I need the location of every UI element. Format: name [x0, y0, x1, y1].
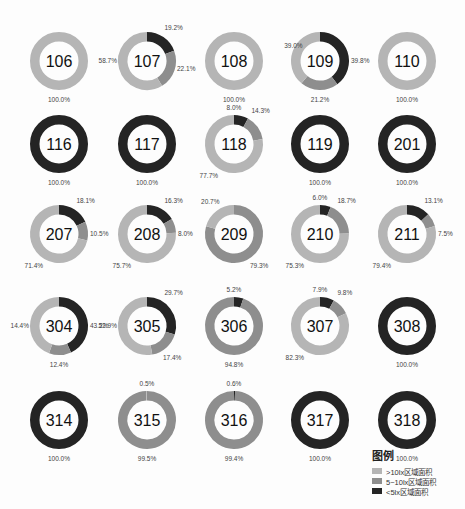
percent-label: 18.7%: [337, 197, 356, 204]
percent-label: 58.7%: [99, 57, 118, 64]
room-number: 305: [134, 318, 161, 335]
room-number: 117: [134, 136, 160, 153]
percent-label: 75.7%: [113, 262, 132, 269]
room-number: 307: [307, 318, 334, 335]
room-number: 118: [221, 136, 247, 153]
percent-label: 22.1%: [177, 65, 196, 72]
percent-label: 99.4%: [225, 455, 244, 462]
room-number: 210: [307, 226, 334, 243]
percent-label: 10.5%: [90, 230, 109, 237]
legend-item-medium: 5~10lx区域面积: [372, 476, 436, 486]
percent-label: 100.0%: [136, 179, 158, 186]
percent-label: 100.0%: [309, 455, 331, 462]
percent-label: 100.0%: [48, 179, 70, 186]
room-number: 318: [394, 412, 421, 429]
percent-label: 100.0%: [396, 179, 418, 186]
percent-label: 29.7%: [164, 289, 183, 296]
room-number: 106: [46, 53, 73, 70]
percent-label: 79.3%: [250, 262, 269, 269]
donut-118: 1188.0%14.3%77.7%: [200, 104, 270, 179]
donut-207: 20718.1%10.5%71.4%: [25, 197, 109, 269]
percent-label: 100.0%: [223, 96, 245, 103]
percent-label: 77.7%: [200, 172, 219, 179]
donut-116: 116100.0%: [35, 120, 84, 186]
room-number: 207: [46, 226, 73, 243]
legend-item-light: >10lx区域面积: [372, 466, 436, 476]
percent-label: 8.0%: [178, 230, 193, 237]
legend-title: 图例: [372, 447, 436, 463]
donut-210: 2106.0%18.7%75.3%: [286, 194, 356, 269]
percent-label: 100.0%: [48, 96, 70, 103]
donut-108: 108100.0%: [210, 37, 259, 103]
room-number: 110: [394, 53, 420, 70]
donut-107: 10719.2%22.1%58.7%: [99, 24, 196, 85]
percent-label: 14.4%: [11, 322, 30, 329]
donut-314: 314100.0%: [35, 396, 84, 462]
room-number: 304: [46, 318, 73, 335]
donut-307: 3077.9%9.8%82.3%: [286, 286, 353, 361]
percent-label: 79.4%: [373, 262, 392, 269]
donut-304: 30443.2%12.4%14.4%: [11, 302, 109, 368]
percent-label: 99.5%: [138, 455, 157, 462]
room-number: 317: [307, 412, 334, 429]
donut-315: 3150.5%99.5%: [123, 380, 172, 462]
legend: 图例 >10lx区域面积 5~10lx区域面积 <5lx区域面积: [372, 447, 436, 496]
room-number: 119: [307, 136, 333, 153]
donut-305: 30529.7%17.4%52.9%: [99, 289, 183, 361]
percent-label: 18.1%: [76, 197, 95, 204]
percent-label: 71.4%: [25, 262, 44, 269]
percent-label: 100.0%: [48, 455, 70, 462]
percent-label: 16.3%: [164, 197, 183, 204]
percent-label: 12.4%: [50, 361, 69, 368]
percent-label: 82.3%: [286, 354, 305, 361]
room-number: 116: [46, 136, 72, 153]
room-number: 315: [134, 412, 161, 429]
percent-label: 21.2%: [311, 96, 330, 103]
donut-chart-grid: 106100.0%10719.2%22.1%58.7%108100.0%1093…: [0, 0, 465, 509]
room-number: 107: [134, 53, 161, 70]
percent-label: 100.0%: [396, 96, 418, 103]
percent-label: 39.0%: [284, 42, 303, 49]
donut-119: 119100.0%: [296, 120, 345, 186]
percent-label: 94.8%: [225, 361, 244, 368]
legend-swatch-dark: [372, 488, 382, 494]
donut-109: 10939.8%21.2%39.0%: [284, 37, 369, 103]
donut-306: 3065.2%94.8%: [210, 286, 258, 368]
percent-label: 39.8%: [351, 57, 370, 64]
donut-317: 317100.0%: [296, 396, 345, 462]
donut-110: 110100.0%: [383, 37, 432, 103]
donut-308: 308100.0%: [383, 302, 432, 368]
room-number: 316: [221, 412, 248, 429]
donut-208: 20816.3%8.0%75.7%: [113, 197, 193, 269]
percent-label: 7.9%: [313, 286, 328, 293]
legend-swatch-light: [372, 468, 382, 474]
room-number: 201: [394, 136, 421, 153]
percent-label: 20.7%: [201, 198, 220, 205]
legend-swatch-medium: [372, 478, 382, 484]
percent-label: 75.3%: [286, 262, 305, 269]
percent-label: 6.0%: [313, 194, 328, 201]
legend-item-dark: <5lx区域面积: [372, 486, 436, 496]
percent-label: 17.4%: [163, 354, 182, 361]
percent-label: 13.1%: [424, 197, 443, 204]
percent-label: 0.6%: [227, 380, 242, 387]
room-number: 308: [394, 318, 421, 335]
donut-316: 3160.6%99.4%: [210, 380, 258, 462]
room-number: 314: [46, 412, 73, 429]
percent-label: 52.9%: [99, 322, 118, 329]
percent-label: 100.0%: [309, 179, 331, 186]
legend-label-dark: <5lx区域面积: [386, 486, 428, 497]
percent-label: 100.0%: [396, 361, 418, 368]
percent-label: 9.8%: [337, 289, 352, 296]
room-number: 108: [221, 53, 248, 70]
percent-label: 19.2%: [164, 24, 183, 31]
room-number: 211: [394, 226, 420, 243]
percent-label: 14.3%: [251, 107, 270, 114]
room-number: 209: [221, 226, 248, 243]
donut-106: 106100.0%: [35, 37, 84, 103]
percent-label: 5.2%: [227, 286, 242, 293]
percent-label: 0.5%: [140, 380, 155, 387]
percent-label: 7.5%: [438, 230, 453, 237]
percent-label: 8.0%: [227, 104, 242, 111]
room-number: 306: [221, 318, 248, 335]
